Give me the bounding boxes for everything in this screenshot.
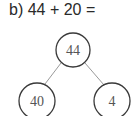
connector-right bbox=[85, 63, 104, 85]
left-node: 40 bbox=[19, 83, 55, 116]
root-node: 44 bbox=[56, 33, 90, 67]
connector-left bbox=[45, 63, 61, 84]
number-bond-diagram: 44 40 4 bbox=[0, 0, 135, 116]
left-value: 40 bbox=[30, 94, 44, 109]
right-value: 4 bbox=[109, 94, 116, 109]
root-value: 44 bbox=[66, 43, 80, 58]
right-node: 4 bbox=[94, 83, 130, 116]
